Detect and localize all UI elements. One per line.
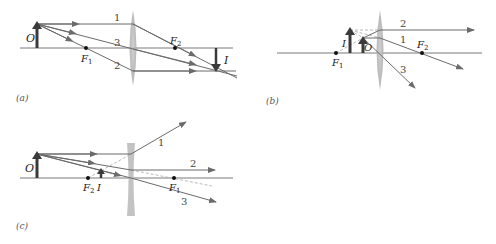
ray-label-2: 2	[190, 158, 196, 169]
object-label: O	[25, 162, 34, 175]
panel-caption-a: (a)	[16, 93, 29, 103]
panel-caption-c: (c)	[16, 221, 29, 231]
panel-b: I O F1 F2 2 1 3 (b)	[266, 10, 482, 106]
converging-lens	[377, 10, 384, 90]
rays	[37, 24, 237, 78]
ray-label-2: 2	[114, 60, 120, 71]
f2-label: F2	[82, 182, 94, 195]
focal-point-f2	[86, 176, 90, 180]
f1-label: F1	[331, 57, 343, 70]
ray-label-2: 2	[400, 18, 406, 29]
image-arrowhead	[345, 27, 355, 35]
panel-c: O I F2 F1 1 2 3 (c)	[16, 122, 233, 231]
f1-label: F1	[168, 182, 180, 195]
f2-label: F2	[416, 39, 428, 52]
panel-caption-b: (b)	[266, 96, 279, 106]
ray-label-3: 3	[400, 64, 406, 75]
ray-label-3: 3	[181, 196, 187, 207]
ray-label-1: 1	[158, 137, 164, 148]
object-label: O	[364, 42, 372, 53]
focal-point-f1	[84, 46, 88, 50]
panel-a: O I F1 F2 1 2 3 (a)	[16, 10, 237, 103]
image-label: I	[223, 54, 229, 67]
focal-point-f1	[172, 176, 176, 180]
image-label: I	[96, 182, 102, 193]
ray-diagram-figure: O I F1 F2 1 2 3 (a)	[0, 0, 496, 244]
focal-point-f1	[334, 51, 338, 55]
object-label: O	[26, 32, 35, 45]
ray-label-3: 3	[114, 37, 120, 48]
f1-label: F1	[80, 53, 92, 66]
ray-label-1: 1	[400, 34, 406, 45]
ray-label-1: 1	[114, 12, 120, 23]
